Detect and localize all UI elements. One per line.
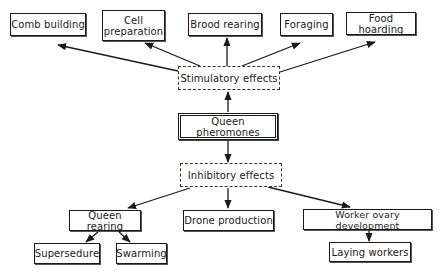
node-label: Foraging: [284, 19, 328, 30]
node-laying-workers: Laying workers: [329, 242, 411, 262]
node-worker-ovary-development: Worker ovary development: [303, 209, 432, 230]
arrow-to-cell-preparation: [145, 43, 200, 66]
node-food-hoarding: Food hoarding: [346, 12, 416, 35]
queen-pheromone-diagram: Comb building Cell preparation Brood rea…: [0, 0, 443, 275]
arrow-to-food-hoarding: [280, 42, 375, 72]
node-label: Comb building: [11, 19, 85, 30]
node-cell-preparation: Cell preparation: [102, 10, 165, 41]
node-label: Stimulatory effects: [180, 73, 277, 84]
node-drone-production: Drone production: [183, 210, 274, 231]
arrow-to-swarming: [119, 232, 130, 242]
node-brood-rearing: Brood rearing: [188, 13, 262, 36]
node-label: Cell preparation: [104, 15, 163, 37]
node-label: Inhibitory effects: [188, 170, 275, 181]
node-label: Queen rearing: [70, 210, 140, 232]
node-queen-pheromones: Queen pheromones: [178, 113, 278, 140]
node-queen-rearing: Queen rearing: [69, 210, 141, 231]
arrow-to-supersedure: [86, 232, 98, 242]
node-label: Worker ovary development: [304, 209, 431, 231]
node-label: Supersedure: [35, 248, 100, 259]
node-label: Queen pheromones: [181, 116, 275, 138]
arrow-to-queen-rearing: [128, 188, 190, 208]
node-label: Brood rearing: [190, 19, 260, 30]
node-swarming: Swarming: [116, 243, 167, 264]
arrow-to-worker-ovary-development: [268, 187, 350, 207]
node-label: Food hoarding: [347, 13, 415, 35]
node-stimulatory-effects: Stimulatory effects: [178, 66, 280, 90]
arrow-to-foraging: [242, 43, 300, 66]
node-comb-building: Comb building: [10, 13, 86, 36]
node-label: Swarming: [116, 248, 167, 259]
node-label: Laying workers: [332, 247, 409, 258]
node-supersedure: Supersedure: [34, 243, 100, 264]
node-foraging: Foraging: [280, 13, 333, 36]
node-inhibitory-effects: Inhibitory effects: [180, 163, 282, 187]
node-label: Drone production: [184, 215, 273, 226]
